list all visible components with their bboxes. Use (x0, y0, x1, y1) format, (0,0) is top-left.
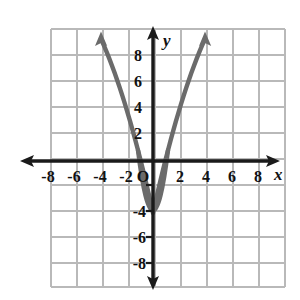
x-tick-label-8: 8 (254, 168, 262, 185)
y-tick-label-neg6: -6 (133, 229, 146, 246)
x-tick-label-neg4: -4 (93, 168, 106, 185)
coordinate-plane-svg: -8 -6 -4 -2 2 4 6 8 O 8 6 4 2 -4 -6 -8 y… (0, 0, 300, 300)
x-axis-label: x (273, 165, 283, 184)
y-tick-label-neg4: -4 (133, 203, 146, 220)
x-tick-label-neg2: -2 (119, 168, 132, 185)
x-tick-label-4: 4 (202, 168, 210, 185)
origin-label: O (137, 168, 149, 185)
x-tick-label-6: 6 (228, 168, 236, 185)
y-tick-label-neg8: -8 (133, 255, 146, 272)
y-tick-label-6: 6 (134, 73, 142, 90)
y-tick-label-4: 4 (134, 99, 142, 116)
y-axis-label: y (161, 31, 171, 50)
y-tick-label-8: 8 (134, 47, 142, 64)
y-tick-label-2: 2 (134, 125, 142, 142)
x-tick-label-neg8: -8 (41, 168, 54, 185)
x-tick-label-2: 2 (176, 168, 184, 185)
x-tick-label-neg6: -6 (67, 168, 80, 185)
figure-background (0, 0, 300, 300)
graph-figure: -8 -6 -4 -2 2 4 6 8 O 8 6 4 2 -4 -6 -8 y… (0, 0, 300, 300)
